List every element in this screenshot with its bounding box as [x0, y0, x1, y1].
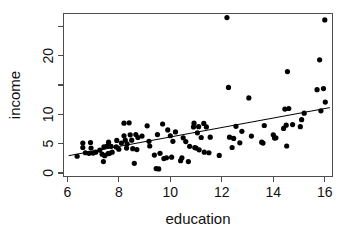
data-point — [88, 140, 93, 145]
data-point — [157, 151, 162, 156]
data-point — [239, 129, 244, 134]
x-tick-label: 14 — [266, 184, 282, 200]
data-point — [128, 132, 133, 137]
data-point — [196, 124, 201, 129]
data-point — [110, 150, 115, 155]
data-point — [208, 135, 213, 140]
data-point — [285, 69, 290, 74]
data-point — [165, 127, 170, 132]
x-axis-title: education — [165, 210, 230, 227]
data-point — [152, 153, 157, 158]
data-point — [88, 145, 93, 150]
data-point — [160, 121, 165, 126]
data-point — [206, 150, 211, 155]
data-point — [299, 117, 304, 122]
scatterplot-figure: 6810121416 051020 educationincome — [0, 0, 352, 234]
data-point — [202, 150, 207, 155]
data-point — [169, 155, 174, 160]
data-point — [101, 159, 106, 164]
data-point — [260, 140, 265, 145]
y-axis-title: income — [6, 71, 23, 119]
y-axis: 051020 — [40, 26, 64, 176]
data-point — [204, 124, 209, 129]
data-point — [80, 145, 85, 150]
data-point — [134, 147, 139, 152]
y-tick-label: 5 — [40, 140, 56, 148]
data-point — [197, 147, 202, 152]
data-point — [183, 139, 188, 144]
data-point — [226, 85, 231, 90]
x-tick-label: 16 — [317, 184, 333, 200]
data-point — [237, 140, 242, 145]
data-point — [273, 135, 278, 140]
data-point — [249, 133, 254, 138]
data-point — [127, 120, 132, 125]
y-tick-label: 10 — [40, 106, 56, 122]
data-point — [139, 133, 144, 138]
data-point — [145, 123, 150, 128]
data-point — [199, 135, 204, 140]
data-point — [246, 95, 251, 100]
x-tick-label: 12 — [214, 184, 230, 200]
data-point — [290, 122, 295, 127]
data-point — [317, 57, 322, 62]
data-point — [217, 153, 222, 158]
data-point — [230, 145, 235, 150]
x-tick-label: 8 — [115, 184, 123, 200]
x-tick-label: 10 — [163, 184, 179, 200]
data-point — [114, 138, 119, 143]
data-point — [121, 133, 126, 138]
data-point — [173, 129, 178, 134]
data-point — [231, 136, 236, 141]
y-tick-label: 0 — [40, 169, 56, 177]
data-point — [121, 121, 126, 126]
data-point — [321, 86, 326, 91]
plot-canvas: 6810121416 051020 educationincome — [0, 0, 352, 234]
data-point — [322, 17, 327, 22]
data-point — [314, 87, 319, 92]
y-tick-label: 20 — [40, 48, 56, 64]
data-point — [155, 132, 160, 137]
data-point — [116, 147, 121, 152]
x-tick-label: 6 — [63, 184, 71, 200]
data-point — [284, 123, 289, 128]
data-point — [286, 106, 291, 111]
data-point — [156, 166, 161, 171]
data-point — [187, 144, 192, 149]
data-point — [132, 161, 137, 166]
x-axis: 6810121416 — [63, 177, 332, 200]
data-point — [186, 159, 191, 164]
data-point — [164, 155, 169, 160]
data-point — [170, 139, 175, 144]
data-point — [147, 143, 152, 148]
data-point — [191, 121, 196, 126]
data-point — [179, 155, 184, 160]
data-point — [284, 143, 289, 148]
data-point — [262, 123, 267, 128]
data-point — [323, 99, 328, 104]
data-point — [298, 124, 303, 129]
data-point — [129, 138, 134, 143]
data-point — [224, 15, 229, 20]
